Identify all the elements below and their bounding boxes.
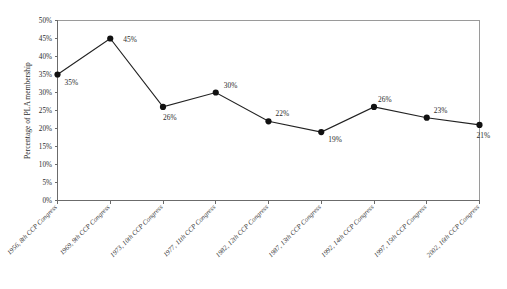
x-category-label: 1969, 9th CCP Congress [58,203,111,256]
chart-container: 50%45%40%35%30%25%20%15%10%5%0% 35%45%26… [0,0,507,289]
data-point-marker [107,35,113,41]
data-point-marker [160,104,166,110]
y-axis-title: Percentage of PLA membership [23,62,32,159]
y-axis-title-text: Percentage of PLA membership [23,62,32,159]
data-point-label: 30% [224,81,238,90]
data-point-label: 19% [328,135,342,144]
y-tick-label: 10% [39,161,52,169]
x-category-label: 1973, 10th CCP Congress [109,203,164,258]
y-tick-label: 30% [39,89,52,97]
data-point-label: 22% [276,109,290,118]
y-tick-label: 25% [39,107,52,115]
x-category-label: 1977, 11th CCP Congress [162,203,217,258]
data-point-marker [476,122,482,128]
series-polyline [58,39,480,133]
x-category-label: 1982, 12th CCP Congress [214,203,269,258]
data-point-marker [265,118,271,124]
data-point-marker [371,104,377,110]
y-tick-label: 35% [39,71,52,79]
data-point-label: 45% [123,35,137,44]
y-axis-ticks: 50%45%40%35%30%25%20%15%10%5%0% [39,17,58,205]
y-tick-label: 50% [39,17,52,25]
line-chart: 50%45%40%35%30%25%20%15%10%5%0% 35%45%26… [0,0,507,289]
plot-frame [58,21,480,201]
data-point-marker [424,115,430,121]
x-category-label: 1997, 15th CCP Congress [372,203,427,258]
y-tick-label: 20% [39,125,52,133]
data-point-marker [318,129,324,135]
x-category-label: 2002, 16th CCP Congress [425,203,480,258]
x-axis-ticks [58,201,480,205]
data-value-labels: 35%45%26%30%22%19%26%23%21% [65,35,491,145]
y-tick-label: 15% [39,143,52,151]
data-point-label: 35% [65,78,79,87]
x-category-label: 1956, 8th CCP Congress [5,203,58,256]
data-point-label: 21% [477,131,491,140]
x-category-label: 1987, 13th CCP Congress [267,203,322,258]
data-point-label: 26% [163,113,177,122]
x-category-label: 1992, 14th CCP Congress [320,203,375,258]
data-point-marker [213,89,219,95]
x-axis-category-labels: 1956, 8th CCP Congress1969, 9th CCP Cong… [5,203,480,258]
y-tick-label: 5% [42,179,52,187]
data-point-markers [54,35,482,135]
y-tick-label: 45% [39,35,52,43]
y-tick-label: 0% [42,197,52,205]
data-point-label: 26% [378,95,392,104]
data-point-label: 23% [434,106,448,115]
data-series-line [58,39,480,133]
data-point-marker [54,71,60,77]
y-tick-label: 40% [39,53,52,61]
